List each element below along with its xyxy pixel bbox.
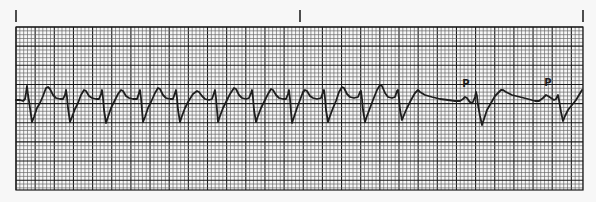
paper-background: [0, 0, 596, 202]
ecg-strip: PP: [0, 0, 596, 202]
p-wave-label: P: [544, 77, 551, 88]
p-wave-label: P: [462, 78, 469, 89]
